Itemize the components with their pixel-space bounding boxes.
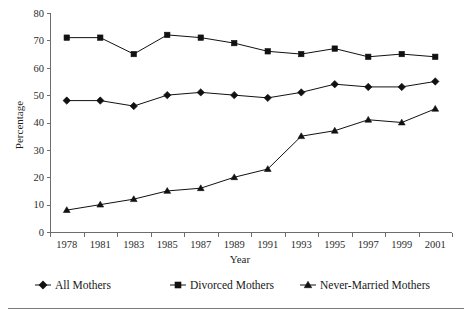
x-tick-label: 1995 — [324, 239, 345, 250]
legend-marker-triangle — [304, 281, 312, 287]
data-point-marker — [331, 80, 338, 87]
x-tick-label: 1991 — [257, 239, 278, 250]
x-tick-label: 1999 — [391, 239, 412, 250]
x-axis-title: Year — [230, 253, 251, 265]
y-axis: 01020304050607080 — [34, 8, 51, 238]
legend-marker-square — [175, 282, 181, 288]
series-never-married-mothers — [63, 105, 438, 212]
y-tick-label: 40 — [34, 117, 45, 128]
data-point-marker — [64, 35, 69, 40]
data-point-marker — [366, 54, 371, 59]
x-tick-label: 1989 — [224, 239, 245, 250]
y-tick-label: 20 — [34, 172, 45, 183]
data-point-marker — [264, 94, 271, 101]
data-point-marker — [63, 97, 70, 104]
data-point-marker — [332, 46, 337, 51]
y-tick-label: 0 — [39, 227, 44, 238]
data-point-marker — [131, 51, 136, 56]
legend-label: Never-Married Mothers — [320, 279, 430, 291]
y-tick-label: 30 — [34, 145, 45, 156]
series-all-mothers — [63, 78, 439, 110]
y-tick-label: 70 — [34, 35, 45, 46]
data-point-marker — [365, 116, 372, 122]
legend-item-divorced-mothers[interactable]: Divorced Mothers — [170, 279, 275, 291]
legend-label: Divorced Mothers — [190, 279, 275, 291]
x-tick-label: 1997 — [358, 239, 379, 250]
data-point-marker — [165, 32, 170, 37]
x-tick-label: 1983 — [123, 239, 144, 250]
x-tick-label: 1993 — [291, 239, 312, 250]
data-point-marker — [98, 35, 103, 40]
legend-marker-diamond — [39, 281, 47, 289]
y-tick-label: 60 — [34, 63, 45, 74]
data-point-marker — [433, 54, 438, 59]
data-point-marker — [399, 51, 404, 56]
data-point-marker — [265, 49, 270, 54]
x-tick-label: 1985 — [157, 239, 178, 250]
series-divorced-mothers — [64, 32, 438, 59]
legend-item-never-married-mothers[interactable]: Never-Married Mothers — [300, 279, 430, 291]
data-point-marker — [130, 102, 137, 109]
data-point-marker — [231, 91, 238, 98]
data-point-marker — [232, 40, 237, 45]
data-point-marker — [164, 91, 171, 98]
x-axis: 1978198119831985198719891991199319951997… — [51, 233, 453, 251]
legend-item-all-mothers[interactable]: All Mothers — [35, 279, 111, 291]
y-axis-title: Percentage — [13, 101, 25, 149]
data-point-marker — [398, 83, 405, 90]
chart-legend: All MothersDivorced MothersNever-Married… — [35, 279, 430, 291]
data-point-marker — [198, 35, 203, 40]
y-tick-label: 50 — [34, 90, 45, 101]
data-point-marker — [97, 97, 104, 104]
legend-label: All Mothers — [55, 279, 111, 291]
data-point-marker — [432, 105, 439, 111]
data-point-marker — [432, 78, 439, 85]
line-chart-canvas: Percentage Year 01020304050607080 197819… — [0, 0, 472, 314]
x-tick-label: 1981 — [90, 239, 111, 250]
chart-figure: Percentage Year 01020304050607080 197819… — [0, 0, 472, 314]
x-tick-label: 1978 — [56, 239, 77, 250]
data-point-marker — [197, 89, 204, 96]
x-tick-label: 2001 — [425, 239, 446, 250]
y-tick-label: 10 — [34, 199, 45, 210]
data-point-marker — [365, 83, 372, 90]
data-point-marker — [298, 89, 305, 96]
data-point-marker — [299, 51, 304, 56]
x-tick-label: 1987 — [190, 239, 211, 250]
series-layer — [63, 32, 439, 212]
y-tick-label: 80 — [34, 8, 45, 19]
